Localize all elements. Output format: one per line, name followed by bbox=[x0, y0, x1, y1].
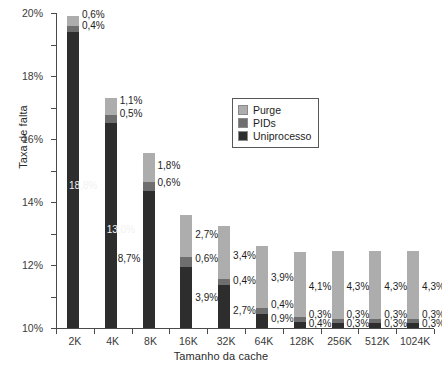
x-tick bbox=[396, 329, 397, 334]
x-tick bbox=[207, 329, 208, 334]
bar-value-label: 2,7% bbox=[233, 306, 256, 316]
x-tick bbox=[283, 329, 284, 334]
bar-segment-uniprocesso bbox=[143, 191, 155, 328]
bar-chart: Taxa de falta Tamanho da cache 0%2%4%6%8… bbox=[0, 0, 442, 371]
bar-value-label: 4,3% bbox=[422, 282, 442, 292]
y-tick-label: 12% bbox=[22, 259, 43, 271]
bar-stack bbox=[332, 251, 344, 328]
bar-stack bbox=[294, 252, 306, 328]
bar-segment-uniprocesso bbox=[369, 323, 381, 328]
bar-value-label: 0,3% bbox=[347, 319, 370, 329]
y-tick-label: 20% bbox=[22, 7, 43, 19]
bar-segment-pids bbox=[294, 317, 306, 322]
bar-value-label: 3,4% bbox=[233, 251, 256, 261]
x-tick-label: 16K bbox=[179, 335, 198, 347]
y-tick: 18% bbox=[51, 45, 56, 46]
x-tick-label: 128K bbox=[289, 335, 314, 347]
bar-value-label: 18,8% bbox=[69, 181, 97, 191]
bar-segment-purge bbox=[332, 251, 344, 319]
x-axis-title: Tamanho da cache bbox=[0, 350, 442, 362]
bar-value-label: 0,6% bbox=[82, 10, 105, 20]
y-tick-label: 14% bbox=[22, 196, 43, 208]
x-tick-label: 2K bbox=[68, 335, 81, 347]
bar-segment-purge bbox=[369, 251, 381, 319]
legend-label-pids: PIDs bbox=[253, 117, 276, 129]
bar-value-label: 1,8% bbox=[158, 161, 181, 171]
x-tick bbox=[56, 329, 57, 334]
bar-segment-uniprocesso bbox=[256, 314, 268, 328]
bar-stack bbox=[218, 226, 230, 328]
y-tick: 4% bbox=[51, 265, 56, 266]
y-tick: 6% bbox=[51, 234, 56, 235]
bar-stack bbox=[67, 16, 79, 328]
bar-segment-purge bbox=[294, 252, 306, 317]
x-tick bbox=[358, 329, 359, 334]
bar-value-label: 0,4% bbox=[82, 21, 105, 31]
bar-value-label: 0,3% bbox=[384, 310, 407, 320]
bar-segment-pids bbox=[369, 319, 381, 324]
bar-value-label: 1,1% bbox=[120, 96, 143, 106]
bar-value-label: 0,3% bbox=[422, 310, 442, 320]
x-tick bbox=[434, 329, 435, 334]
legend-label-purge: Purge bbox=[253, 104, 281, 116]
y-tick-label: 18% bbox=[22, 70, 43, 82]
legend-item-uniprocesso: Uniprocesso bbox=[238, 129, 311, 142]
y-tick: 16% bbox=[51, 76, 56, 77]
x-tick-label: 512K bbox=[365, 335, 390, 347]
bar-value-label: 4,3% bbox=[384, 282, 407, 292]
bar-segment-purge bbox=[407, 251, 419, 319]
bar-value-label: 0,3% bbox=[384, 319, 407, 329]
bar-segment-purge bbox=[143, 153, 155, 181]
bar-segment-pids bbox=[105, 115, 117, 123]
bar-stack bbox=[180, 215, 192, 328]
y-tick: 8% bbox=[51, 202, 56, 203]
x-tick-label: 64K bbox=[255, 335, 274, 347]
bar-stack bbox=[143, 153, 155, 328]
bar-value-label: 2,7% bbox=[195, 230, 218, 240]
x-tick bbox=[94, 329, 95, 334]
bar-value-label: 0,3% bbox=[422, 319, 442, 329]
bar-stack bbox=[105, 98, 117, 328]
x-tick bbox=[169, 329, 170, 334]
legend-swatch-pids bbox=[238, 118, 248, 128]
y-tick: 2% bbox=[51, 297, 56, 298]
y-axis-line bbox=[56, 13, 57, 329]
bar-segment-pids bbox=[180, 257, 192, 266]
y-tick: 20% bbox=[51, 13, 56, 14]
x-tick bbox=[132, 329, 133, 334]
bar-value-label: 13,0% bbox=[107, 225, 135, 235]
x-tick-label: 8K bbox=[144, 335, 157, 347]
bar-segment-pids bbox=[67, 26, 79, 32]
bar-segment-uniprocesso bbox=[407, 323, 419, 328]
bar-segment-purge bbox=[218, 226, 230, 280]
bar-segment-pids bbox=[407, 319, 419, 324]
y-tick: 14% bbox=[51, 108, 56, 109]
bar-value-label: 0,6% bbox=[158, 178, 181, 188]
legend-item-purge: Purge bbox=[238, 103, 311, 116]
bar-value-label: 0,4% bbox=[233, 276, 256, 286]
bar-value-label: 0,9% bbox=[271, 314, 294, 324]
x-tick-label: 256K bbox=[327, 335, 352, 347]
x-tick bbox=[245, 329, 246, 334]
bar-segment-purge bbox=[67, 16, 79, 25]
bar-value-label: 3,9% bbox=[271, 273, 294, 283]
bar-stack bbox=[369, 251, 381, 328]
y-tick-label: 10% bbox=[22, 322, 43, 334]
bar-segment-uniprocesso bbox=[180, 267, 192, 328]
bar-segment-pids bbox=[143, 182, 155, 191]
y-tick: 12% bbox=[51, 139, 56, 140]
x-tick bbox=[321, 329, 322, 334]
bar-value-label: 0,4% bbox=[309, 319, 332, 329]
bar-segment-pids bbox=[256, 308, 268, 314]
bar-value-label: 0,5% bbox=[120, 109, 143, 119]
legend-label-uniprocesso: Uniprocesso bbox=[253, 130, 311, 142]
chart-legend: Purge PIDs Uniprocesso bbox=[232, 98, 319, 148]
bar-value-label: 0,6% bbox=[195, 254, 218, 264]
x-tick-label: 1024K bbox=[400, 335, 430, 347]
x-tick-label: 32K bbox=[217, 335, 236, 347]
bar-segment-pids bbox=[332, 319, 344, 324]
bar-value-label: 4,3% bbox=[347, 282, 370, 292]
legend-swatch-purge bbox=[238, 105, 248, 115]
bar-stack bbox=[407, 251, 419, 328]
bar-value-label: 3,9% bbox=[195, 293, 218, 303]
